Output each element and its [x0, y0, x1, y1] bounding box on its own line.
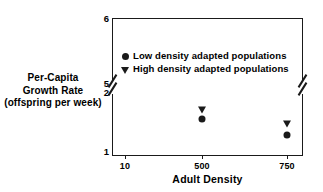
x-tick-mark: [202, 155, 203, 159]
x-tick-label-10: 10: [120, 161, 130, 171]
data-point-low-density-750: [284, 132, 291, 139]
x-tick-mark: [125, 155, 126, 159]
data-point-high-density-500: [198, 107, 206, 114]
y-tick-label-6: 6: [79, 13, 109, 24]
x-tick-label-750: 750: [279, 161, 295, 171]
y-axis-title-line-2: Growth Rate: [2, 85, 104, 98]
y-axis-title-line-1: Per-Capita: [2, 72, 104, 85]
triangle-down-marker-icon: [121, 67, 129, 74]
plot-area: [112, 18, 303, 156]
chart-figure: 10 500 750 6 5 2 1 Per-Capita Growth Rat…: [0, 0, 323, 192]
circle-marker-icon: [122, 53, 129, 60]
data-point-high-density-750: [283, 121, 291, 128]
legend-label-high-density: High density adapted populations: [133, 63, 289, 74]
y-tick-label-1: 1: [79, 146, 109, 157]
y-axis-title: Per-Capita Growth Rate (offspring per we…: [2, 72, 104, 110]
y-axis-title-line-3: (offspring per week): [2, 97, 104, 110]
x-tick-mark: [287, 155, 288, 159]
x-axis-title: Adult Density: [112, 173, 303, 185]
legend-label-low-density: Low density adapted populations: [133, 50, 287, 61]
x-tick-label-500: 500: [194, 161, 210, 171]
data-point-low-density-500: [199, 116, 206, 123]
